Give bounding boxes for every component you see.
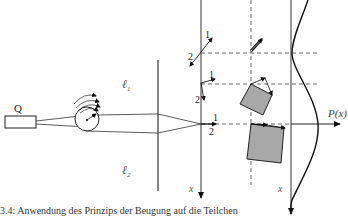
path-label-center-1: 1 [213, 113, 218, 123]
x-axis-1-label: x [189, 184, 193, 194]
path-label-top-1: 1 [205, 30, 210, 40]
path-label-mid-1: 1 [209, 70, 214, 80]
source-box [5, 116, 36, 128]
probability-curve [291, 0, 318, 214]
slit-label-2: ℓ2 [122, 164, 131, 179]
source-label: Q [14, 103, 22, 114]
path-label-top-2: 2 [188, 52, 193, 62]
slit-label-1: ℓ1 [122, 78, 131, 93]
slit-label-2-sub: 2 [127, 171, 131, 179]
rotated-square-center [247, 124, 284, 163]
path-label-center-2: 2 [209, 127, 214, 137]
x-axis-2-label: x [278, 184, 282, 194]
rotated-square-mid [240, 84, 272, 115]
probability-axis-label: P(x) [328, 108, 347, 119]
double-slit-diagram [0, 0, 348, 216]
figure-caption: 3.4: Anwendung des Prinzips der Beugung … [0, 205, 238, 216]
slit-label-1-sub: 1 [127, 85, 131, 93]
path-label-mid-2: 2 [195, 95, 200, 105]
rotor-icon [74, 95, 100, 131]
